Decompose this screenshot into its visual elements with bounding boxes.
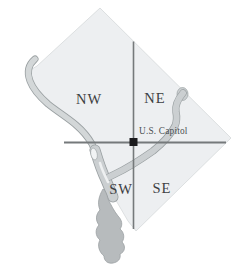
- map-canvas: NW NE SW SE U.S. Capitol: [0, 0, 235, 268]
- quadrant-label-se: SE: [153, 180, 172, 196]
- us-capitol-marker: [130, 138, 138, 146]
- quadrant-label-ne: NE: [144, 90, 165, 106]
- quadrant-label-sw: SW: [109, 181, 133, 197]
- quadrant-label-nw: NW: [76, 91, 102, 107]
- district-land-shape: [30, 8, 231, 231]
- dc-quadrant-map: NW NE SW SE U.S. Capitol: [0, 0, 235, 268]
- us-capitol-label: U.S. Capitol: [139, 126, 188, 136]
